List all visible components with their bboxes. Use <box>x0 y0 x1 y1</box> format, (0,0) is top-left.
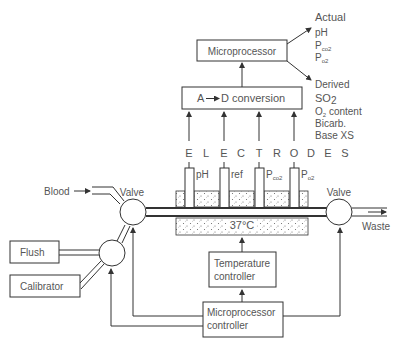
electrode-po2-label: Po2 <box>301 169 315 181</box>
actual-outputs: Actual pH Pco2 Po2 <box>315 11 346 64</box>
waste-label: Waste <box>362 221 390 232</box>
svg-text:C: C <box>237 147 245 159</box>
svg-text:O: O <box>290 147 299 159</box>
actual-output-arrow <box>287 28 311 44</box>
flush-label: Flush <box>20 247 44 258</box>
calibrator-label: Calibrator <box>20 281 64 292</box>
ad-conversion-box: A D conversion <box>182 87 302 109</box>
right-valve: Valve <box>326 187 352 225</box>
svg-text:E: E <box>185 147 192 159</box>
svg-text:T: T <box>256 147 263 159</box>
electrode-ref-label: ref <box>231 169 243 180</box>
svg-text:Microprocessor: Microprocessor <box>207 307 276 318</box>
blood-inlet: Blood <box>44 186 124 204</box>
svg-text:D: D <box>307 147 315 159</box>
derived-bicarb: Bicarb. <box>315 118 346 129</box>
svg-text:controller: controller <box>214 271 256 282</box>
calibrator-box: Calibrator <box>10 261 104 297</box>
pco2-sub: co2 <box>322 46 332 52</box>
derived-o2-content: O2 content <box>315 106 362 118</box>
microprocessor-controller-box: Microprocessor controller <box>203 302 283 337</box>
svg-text:R: R <box>273 147 281 159</box>
derived-base-xs: Base XS <box>315 130 354 141</box>
derived-heading: Derived <box>315 79 349 90</box>
derived-outputs: Derived SO2 O2 content Bicarb. Base XS <box>315 79 362 141</box>
control-left-valve-line <box>133 228 203 316</box>
blood-gas-analyser-diagram: Microprocessor Actual pH Pco2 Po2 Derive… <box>0 0 397 345</box>
lower-water-jacket: 37°C <box>176 218 308 235</box>
actual-pco2: Pco2 <box>315 40 332 52</box>
left-valve: Valve <box>120 187 146 225</box>
derived-output-arrow <box>287 61 311 80</box>
microprocessor-label: Microprocessor <box>208 46 277 57</box>
control-right-valve-line <box>283 228 340 316</box>
flush-box: Flush <box>10 241 99 263</box>
blood-label: Blood <box>44 186 70 197</box>
temperature-label: 37°C <box>230 219 255 231</box>
ad-a-label: A <box>197 92 205 104</box>
actual-ph: pH <box>315 27 328 38</box>
control-selector-valve-line <box>111 269 203 326</box>
upper-water-jacket <box>176 191 308 207</box>
left-valve-label: Valve <box>120 187 145 198</box>
right-valve-label: Valve <box>327 187 352 198</box>
svg-text:L: L <box>203 147 209 159</box>
electrode-pco2-label: Pco2 <box>266 169 283 181</box>
electrodes-label: E L E C T R O D E S <box>185 147 348 159</box>
waste-outlet: Waste <box>352 208 390 232</box>
derived-so2: SO2 <box>315 92 337 106</box>
actual-heading: Actual <box>315 11 346 23</box>
svg-text:controller: controller <box>207 320 249 331</box>
microprocessor-box: Microprocessor <box>197 40 287 61</box>
svg-text:S: S <box>341 147 348 159</box>
svg-text:E: E <box>220 147 227 159</box>
electrode-signal-arrows <box>189 112 294 141</box>
ad-d-label: D conversion <box>221 92 285 104</box>
electrode-ph-label: pH <box>196 169 209 180</box>
actual-po2: Po2 <box>315 52 329 64</box>
temperature-controller-box: Temperature controller <box>209 252 276 287</box>
po2-sub: o2 <box>322 58 329 64</box>
svg-text:Temperature: Temperature <box>214 258 271 269</box>
svg-text:E: E <box>324 147 331 159</box>
measurement-channel <box>146 208 327 216</box>
selector-valve <box>99 240 125 266</box>
